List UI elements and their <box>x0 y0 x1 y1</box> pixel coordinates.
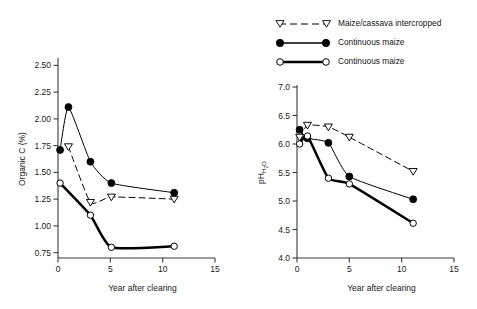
x-tick-label: 10 <box>397 264 407 274</box>
y-tick-label: 1.50 <box>34 167 51 177</box>
legend-item-2: Continuous maize <box>275 52 475 71</box>
marker-open-triangle-down <box>409 168 417 175</box>
legend-item-0: Maize/cassava intercropped <box>275 14 475 33</box>
series-line <box>60 183 174 248</box>
y-tick-label: 6.0 <box>278 139 290 149</box>
x-tick-label: 15 <box>449 264 459 274</box>
marker-filled-circle <box>57 146 64 153</box>
marker-filled-circle <box>108 180 115 187</box>
x-tick-label: 10 <box>158 264 168 274</box>
data-series <box>296 126 417 203</box>
marker-open-circle <box>57 180 63 186</box>
marker-open-triangle-down <box>170 196 178 203</box>
marker-open-circle <box>171 243 177 249</box>
x-tick-label: 0 <box>295 264 300 274</box>
marker-filled-circle <box>410 196 417 203</box>
y-tick-label: 6.5 <box>278 111 290 121</box>
legend-key-open-triangle-down-icon <box>275 17 331 31</box>
y-tick-label: 1.00 <box>34 221 51 231</box>
marker-filled-circle <box>325 139 332 146</box>
legend-item-1: Continuous maize <box>275 33 475 52</box>
x-tick-label: 5 <box>108 264 113 274</box>
figure-root: 0.751.001.251.501.752.002.252.50051015Ye… <box>0 0 477 309</box>
marker-open-triangle-down <box>324 124 332 131</box>
legend-label-2: Continuous maize <box>338 56 404 67</box>
x-axis-title: Year after clearing <box>347 283 416 293</box>
x-axis-title: Year after clearing <box>108 283 177 293</box>
organic-carbon-plot: 0.751.001.251.501.752.002.252.50051015Ye… <box>0 0 238 309</box>
marker-filled-circle <box>346 173 353 180</box>
marker-open-triangle-down <box>345 134 353 141</box>
marker-open-circle <box>346 181 352 187</box>
legend-key-filled-circle-icon <box>275 36 331 50</box>
legend-key-open-circle-icon <box>275 55 331 69</box>
y-tick-label: 2.00 <box>34 114 51 124</box>
chart-panel-organic-carbon: 0.751.001.251.501.752.002.252.50051015Ye… <box>0 0 238 309</box>
y-tick-label: 4.0 <box>278 253 290 263</box>
marker-open-circle <box>296 141 302 147</box>
x-tick-label: 0 <box>56 264 61 274</box>
y-tick-label: 0.75 <box>34 248 51 258</box>
marker-filled-circle <box>296 126 303 133</box>
x-tick-label: 15 <box>210 264 220 274</box>
series-line <box>68 147 174 204</box>
series-line <box>60 107 174 193</box>
marker-open-circle <box>304 133 310 139</box>
legend-label-0: Maize/cassava intercropped <box>338 18 441 29</box>
y-axis-title: pHH2O <box>256 161 269 184</box>
y-tick-label: 5.0 <box>278 196 290 206</box>
y-axis-title: Organic C (%) <box>17 132 27 186</box>
marker-filled-circle <box>87 158 94 165</box>
marker-open-circle <box>108 244 114 250</box>
y-tick-label: 7.0 <box>278 82 290 92</box>
marker-open-circle <box>325 175 331 181</box>
data-series <box>64 144 178 206</box>
marker-open-circle <box>410 220 416 226</box>
x-tick-label: 5 <box>347 264 352 274</box>
marker-open-circle <box>87 212 93 218</box>
marker-open-triangle-down <box>64 144 72 151</box>
marker-open-triangle-down <box>86 199 94 206</box>
data-series <box>57 104 178 197</box>
y-tick-label: 5.5 <box>278 168 290 178</box>
y-tick-label: 2.25 <box>34 87 51 97</box>
marker-filled-circle <box>171 189 178 196</box>
y-tick-label: 1.75 <box>34 141 51 151</box>
marker-filled-circle <box>65 104 72 111</box>
y-tick-label: 1.25 <box>34 194 51 204</box>
chart-legend: Maize/cassava intercropped Continuous ma… <box>275 14 475 71</box>
y-tick-label: 2.50 <box>34 60 51 70</box>
y-tick-label: 4.5 <box>278 225 290 235</box>
series-line <box>300 125 414 171</box>
legend-label-1: Continuous maize <box>338 37 404 48</box>
